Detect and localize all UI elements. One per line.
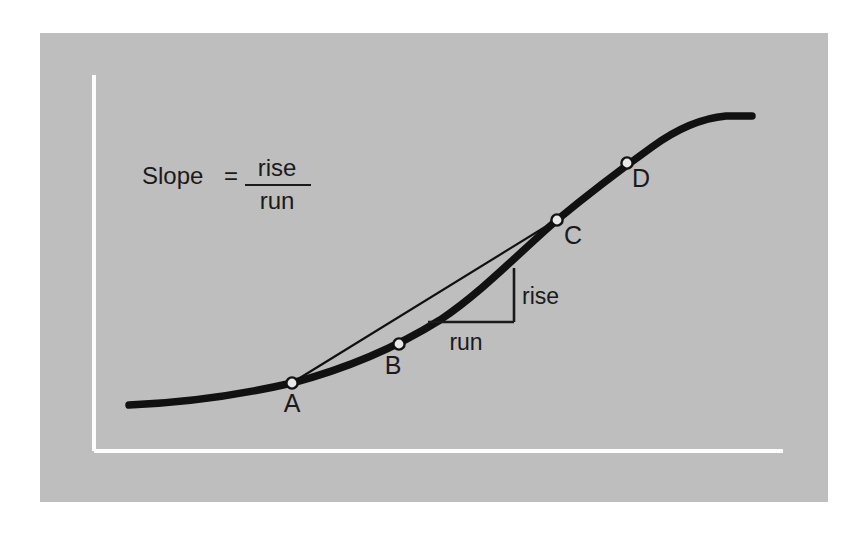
panel-grain [40, 33, 828, 502]
formula-equals: = [224, 162, 238, 189]
figure-canvas: A B C D rise run Slope = rise run [0, 0, 862, 533]
point-label-c: C [564, 221, 582, 249]
formula-numerator: rise [258, 154, 297, 181]
point-label-a: A [284, 389, 301, 417]
run-label: run [449, 329, 482, 355]
formula-lhs: Slope [142, 162, 203, 189]
point-marker-a[interactable] [286, 377, 297, 388]
point-marker-d[interactable] [621, 157, 632, 168]
rise-label: rise [522, 283, 559, 309]
point-marker-b[interactable] [393, 338, 404, 349]
point-label-b: B [385, 351, 402, 379]
point-label-d: D [632, 164, 650, 192]
formula-denominator: run [260, 187, 295, 214]
slope-diagram: A B C D rise run Slope = rise run [0, 0, 862, 533]
point-marker-c[interactable] [551, 214, 562, 225]
